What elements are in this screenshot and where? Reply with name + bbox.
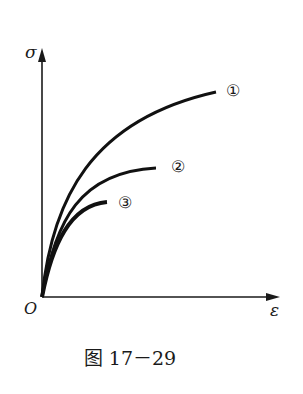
y-axis-label: σ <box>25 42 37 62</box>
stress-strain-diagram <box>0 0 303 394</box>
curve-2 <box>42 168 156 297</box>
curve-1-label: ① <box>226 81 240 100</box>
figure-caption: 图 17－29 <box>0 343 260 370</box>
curve-3-label: ③ <box>118 193 132 212</box>
y-axis-arrow-icon <box>38 48 46 62</box>
origin-label: O <box>24 299 37 318</box>
x-axis-label: ε <box>270 300 279 320</box>
curve-2-label: ② <box>171 157 185 176</box>
